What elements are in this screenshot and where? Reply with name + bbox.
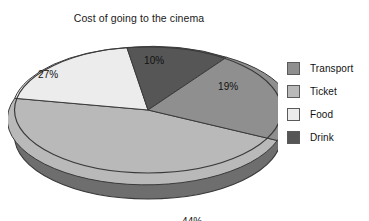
data-label-food: 27% (38, 69, 58, 80)
legend-label-transport: Transport (310, 63, 353, 74)
legend-label-food: Food (310, 109, 333, 120)
legend-label-ticket: Ticket (310, 86, 337, 97)
chart-title: Cost of going to the cinema (0, 12, 278, 24)
chart-legend: Transport Ticket Food Drink (287, 61, 353, 144)
pie-chart: 10% 19% 27% 44% (8, 24, 278, 214)
legend-swatch-food (287, 108, 300, 121)
pie-chart-svg (8, 24, 278, 214)
legend-label-drink: Drink (310, 132, 334, 143)
data-label-drink: 10% (144, 55, 164, 66)
legend-item-ticket: Ticket (287, 84, 353, 98)
legend-swatch-drink (287, 131, 300, 144)
pie-top-face (8, 46, 278, 184)
legend-item-food: Food (287, 107, 353, 121)
data-label-ticket: 44% (182, 216, 202, 221)
legend-item-drink: Drink (287, 130, 353, 144)
chart-canvas: Cost of going to the cinema (0, 0, 369, 221)
legend-item-transport: Transport (287, 61, 353, 75)
legend-swatch-transport (287, 62, 300, 75)
legend-swatch-ticket (287, 85, 300, 98)
data-label-transport: 19% (218, 81, 238, 92)
